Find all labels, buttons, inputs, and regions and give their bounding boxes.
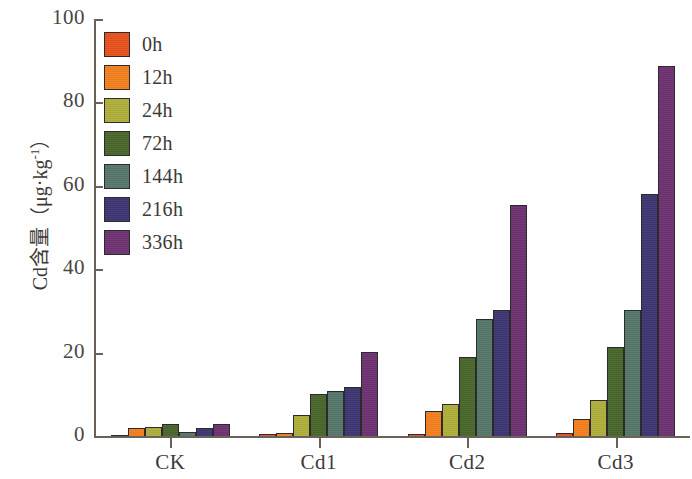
legend-label: 0h <box>142 33 163 56</box>
legend-label: 12h <box>142 66 173 89</box>
y-axis-title-end: ） <box>29 129 51 149</box>
bar <box>493 310 510 437</box>
x-tick-mark <box>170 438 172 448</box>
bar <box>293 415 310 437</box>
legend-item[interactable]: 216h <box>104 193 224 225</box>
legend-swatch <box>104 65 130 90</box>
legend-item[interactable]: 72h <box>104 127 224 159</box>
bar <box>573 419 590 437</box>
bar <box>344 387 361 437</box>
y-tick-label: 60 <box>39 172 85 197</box>
legend-item[interactable]: 0h <box>104 28 224 60</box>
legend-label: 336h <box>142 231 183 254</box>
legend-swatch <box>104 197 130 222</box>
bar <box>459 357 476 437</box>
legend-item[interactable]: 12h <box>104 61 224 93</box>
chart-figure: Cd含量（μg·kg-1） 020406080100 CKCd1Cd2Cd3 0… <box>0 0 692 479</box>
x-tick-mark <box>467 438 469 448</box>
bar <box>213 424 230 437</box>
x-tick-mark <box>616 438 618 448</box>
y-tick-label: 100 <box>39 5 85 30</box>
bar <box>510 205 527 437</box>
y-tick-label: 0 <box>39 422 85 447</box>
x-axis-line <box>94 436 690 438</box>
legend-swatch <box>104 131 130 156</box>
y-tick-label: 20 <box>39 339 85 364</box>
x-tick-label: Cd3 <box>556 450 676 475</box>
y-axis-title-superscript: -1 <box>27 149 42 160</box>
x-tick-label: Cd2 <box>407 450 527 475</box>
legend-label: 24h <box>142 99 173 122</box>
bar <box>162 424 179 437</box>
x-tick-label: Cd1 <box>259 450 379 475</box>
legend-label: 144h <box>142 165 183 188</box>
bar <box>425 411 442 437</box>
legend-item[interactable]: 144h <box>104 160 224 192</box>
legend-swatch <box>104 230 130 255</box>
x-tick-mark <box>319 438 321 448</box>
bar <box>590 400 607 437</box>
y-tick: 60 <box>0 186 103 188</box>
y-axis-title: Cd含量（μg·kg-1） <box>24 80 53 340</box>
y-tick-label: 40 <box>39 255 85 280</box>
chart-legend: 0h12h24h72h144h216h336h <box>104 28 224 259</box>
x-tick-label: CK <box>110 450 230 475</box>
bar <box>361 352 378 437</box>
y-tick: 40 <box>0 269 103 271</box>
y-tick-label: 80 <box>39 88 85 113</box>
legend-label: 216h <box>142 198 183 221</box>
y-tick: 80 <box>0 102 103 104</box>
bar <box>327 391 344 437</box>
y-tick: 20 <box>0 353 103 355</box>
bar <box>310 394 327 437</box>
bar <box>607 347 624 437</box>
legend-item[interactable]: 336h <box>104 226 224 258</box>
bar <box>442 404 459 437</box>
legend-swatch <box>104 98 130 123</box>
y-tick: 100 <box>0 19 103 21</box>
legend-swatch <box>104 164 130 189</box>
legend-label: 72h <box>142 132 173 155</box>
bar <box>476 319 493 437</box>
y-tick: 0 <box>0 436 103 438</box>
legend-item[interactable]: 24h <box>104 94 224 126</box>
bar <box>624 310 641 437</box>
legend-swatch <box>104 32 130 57</box>
bar <box>641 194 658 437</box>
bar <box>658 66 675 437</box>
